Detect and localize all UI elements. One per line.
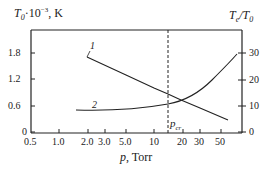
y-right-title: Te/T0 — [229, 8, 253, 24]
y-left-tick-label: 1.8 — [8, 47, 21, 58]
x-tick-label: 1.0 — [52, 136, 65, 147]
y-right-tick-label: 30 — [249, 47, 259, 58]
x-tick-label: 30 — [194, 136, 204, 147]
curve-2 — [76, 54, 237, 110]
x-tick-label: 5.0 — [119, 136, 132, 147]
x-tick-label: 20 — [177, 136, 187, 147]
x-tick-label: 3.0 — [98, 136, 111, 147]
x-tick-label: 0.5 — [24, 136, 37, 147]
y-left-tick-label: 1.2 — [8, 73, 21, 84]
curve-1-label: 1 — [90, 40, 95, 51]
x-tick-label: 10 — [149, 136, 159, 147]
y-right-tick-label: 20 — [249, 74, 259, 85]
y-left-tick-label: 0.6 — [8, 100, 21, 111]
x-axis-title: p, Torr — [120, 150, 152, 165]
y-left-title: T0·10−3, K — [14, 6, 63, 22]
y-right-tick-label: 0 — [249, 126, 254, 137]
y-right-tick-label: 10 — [249, 100, 259, 111]
curve-1-leader — [87, 51, 90, 57]
pcr-label: pcr — [170, 117, 181, 132]
curve-2-label: 2 — [92, 99, 97, 110]
x-tick-label: 50 — [215, 136, 225, 147]
chart-plot-area — [0, 0, 266, 174]
x-tick-label: 2.0 — [81, 136, 94, 147]
